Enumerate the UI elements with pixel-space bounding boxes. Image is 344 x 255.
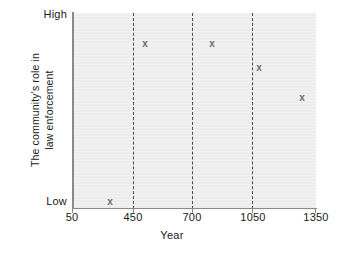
data-point[interactable]: x — [208, 39, 217, 48]
y-axis-title-line-1: The community's role in — [28, 20, 42, 200]
y-axis-line — [72, 12, 74, 209]
x-axis-title: Year — [0, 229, 344, 241]
data-point[interactable]: x — [298, 93, 307, 102]
era-divider-700 — [192, 13, 193, 209]
y-axis-title-line-2: law enforcement — [42, 20, 56, 200]
y-axis-title: The community's role in law enforcement — [28, 20, 56, 200]
data-point[interactable]: x — [106, 197, 115, 206]
data-point[interactable]: x — [255, 63, 264, 72]
plot-area — [73, 13, 316, 208]
y-axis-label-high: High — [44, 8, 67, 20]
x-tick-label-50: 50 — [66, 211, 79, 223]
chart-figure: x x x x x High Low 50 450 700 1050 1350 … — [0, 0, 344, 255]
data-point[interactable]: x — [141, 39, 150, 48]
x-tick-label-450: 450 — [124, 211, 143, 223]
x-tick-label-1350: 1350 — [303, 211, 328, 223]
era-divider-1050 — [252, 13, 253, 209]
era-divider-450 — [133, 13, 134, 209]
x-axis-line — [72, 208, 317, 210]
x-tick-label-700: 700 — [183, 211, 202, 223]
x-tick-label-1050: 1050 — [240, 211, 265, 223]
